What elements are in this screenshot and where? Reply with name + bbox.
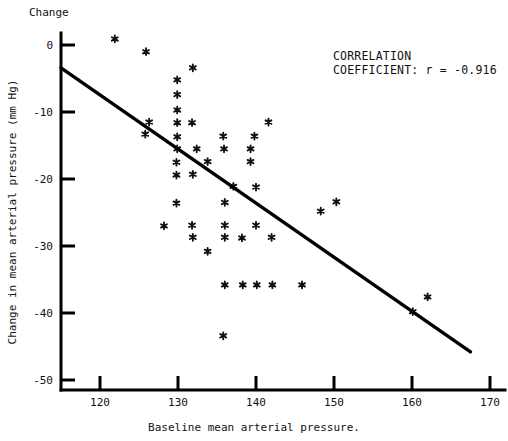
x-tick-label: 150 (324, 396, 344, 409)
data-point (189, 222, 195, 229)
data-point (173, 172, 179, 179)
axes (61, 33, 505, 390)
x-tick-label: 160 (402, 396, 422, 409)
data-point (266, 119, 272, 126)
data-point (174, 119, 180, 126)
data-point (248, 145, 254, 152)
y-tick-label: -30 (33, 240, 53, 253)
data-point (269, 234, 275, 241)
data-point (174, 76, 180, 83)
data-point (254, 281, 260, 288)
tick-labels: 0-10-20-30-40-50120130140150160170 (33, 39, 500, 409)
correlation-annotation-line2: COEFFICIENT: r = -0.916 (333, 63, 497, 77)
data-point (112, 36, 118, 43)
data-point (205, 248, 211, 255)
chart-page: 0-10-20-30-40-50120130140150160170 Chang… (0, 0, 508, 441)
data-point (205, 158, 211, 165)
scatter-plot: 0-10-20-30-40-50120130140150160170 Chang… (0, 0, 508, 441)
x-tick-label: 120 (90, 396, 110, 409)
data-point (146, 119, 152, 126)
x-axis-title: Baseline mean arterial pressure. (148, 421, 360, 434)
data-point (248, 158, 254, 165)
regression-line-segment (61, 68, 471, 352)
data-point (222, 281, 228, 288)
y-axis-title: Change in mean arterial pressure (mm Hg) (6, 80, 19, 345)
data-point (318, 208, 324, 215)
data-point (161, 223, 167, 230)
data-point (239, 235, 245, 242)
data-point (333, 198, 339, 205)
x-tick-label: 140 (246, 396, 266, 409)
data-point (173, 159, 179, 166)
data-point (174, 107, 180, 114)
data-point (194, 145, 200, 152)
x-tick-label: 130 (168, 396, 188, 409)
x-tick-label: 170 (480, 396, 500, 409)
regression-line (61, 68, 471, 352)
data-point (189, 119, 195, 126)
data-point (220, 133, 226, 140)
y-tick-label: -20 (33, 173, 53, 186)
data-point (269, 281, 275, 288)
data-point (240, 281, 246, 288)
y-tick-label: 0 (46, 39, 53, 52)
correlation-annotation-line1: CORRELATION (333, 49, 411, 63)
data-point (190, 64, 196, 71)
data-point (142, 131, 148, 138)
data-point (190, 234, 196, 241)
data-points (112, 36, 431, 340)
data-point (190, 171, 196, 178)
y-tick-label: -50 (33, 374, 53, 387)
data-point (222, 199, 228, 206)
data-point (299, 281, 305, 288)
data-point (222, 222, 228, 229)
data-point (425, 294, 431, 301)
data-point (253, 184, 259, 191)
data-point (253, 222, 259, 229)
data-point (251, 133, 257, 140)
y-tick-label: -40 (33, 307, 53, 320)
data-point (220, 332, 226, 339)
data-point (143, 48, 149, 55)
y-tick-label: -10 (33, 106, 53, 119)
data-point (222, 234, 228, 241)
data-point (221, 145, 227, 152)
change-corner-label: Change (29, 6, 69, 19)
data-point (173, 200, 179, 207)
data-point (174, 133, 180, 140)
data-point (174, 91, 180, 98)
